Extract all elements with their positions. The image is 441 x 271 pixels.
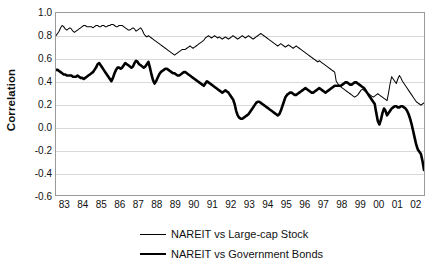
y-axis-title: Correlation xyxy=(0,0,22,200)
legend-label-government-bonds: NAREIT vs Government Bonds xyxy=(171,248,323,260)
x-axis-tick: 92 xyxy=(225,199,236,210)
series-line-government-bonds xyxy=(56,61,424,170)
x-axis-tick: 83 xyxy=(59,199,70,210)
x-axis-tick-labels: 8384858687888990919293949596979899000102 xyxy=(55,199,425,215)
x-axis-tick: 02 xyxy=(410,199,421,210)
x-axis-tick: 00 xyxy=(373,199,384,210)
y-axis-tick: 0.0 xyxy=(38,122,52,133)
x-axis-tick: 86 xyxy=(114,199,125,210)
plot-area xyxy=(55,12,425,196)
legend-line-icon-thin xyxy=(140,229,166,239)
y-axis-tick: -0.2 xyxy=(35,145,52,156)
y-axis-tick: 1.0 xyxy=(38,7,52,18)
correlation-chart: Correlation 1.00.80.60.40.20.0-0.2-0.4-0… xyxy=(0,0,441,271)
x-axis-tick: 99 xyxy=(355,199,366,210)
x-axis-tick: 85 xyxy=(96,199,107,210)
y-axis-tick: -0.6 xyxy=(35,191,52,202)
y-axis-tick: -0.4 xyxy=(35,168,52,179)
legend-line-icon-thick xyxy=(140,249,166,259)
chart-legend: NAREIT vs Large-cap Stock NAREIT vs Gove… xyxy=(0,224,441,264)
y-axis-title-label: Correlation xyxy=(5,69,17,131)
legend-item-large-cap-stock: NAREIT vs Large-cap Stock xyxy=(0,224,441,244)
x-axis-tick: 89 xyxy=(170,199,181,210)
y-axis-tick: 0.2 xyxy=(38,99,52,110)
x-axis-tick: 95 xyxy=(281,199,292,210)
x-axis-tick: 97 xyxy=(318,199,329,210)
x-axis-tick: 88 xyxy=(151,199,162,210)
y-axis-tick-labels: 1.00.80.60.40.20.0-0.2-0.4-0.6 xyxy=(20,12,54,196)
y-axis-tick: 0.6 xyxy=(38,53,52,64)
x-axis-tick: 96 xyxy=(299,199,310,210)
x-axis-tick: 98 xyxy=(336,199,347,210)
x-axis-tick: 84 xyxy=(77,199,88,210)
x-axis-tick: 87 xyxy=(133,199,144,210)
x-axis-tick: 94 xyxy=(262,199,273,210)
legend-label-large-cap-stock: NAREIT vs Large-cap Stock xyxy=(171,228,308,240)
legend-item-government-bonds: NAREIT vs Government Bonds xyxy=(0,244,441,264)
x-axis-tick: 93 xyxy=(244,199,255,210)
y-axis-tick: 0.8 xyxy=(38,30,52,41)
x-axis-tick: 01 xyxy=(392,199,403,210)
y-axis-tick: 0.4 xyxy=(38,76,52,87)
x-axis-tick: 90 xyxy=(188,199,199,210)
series-layer xyxy=(56,13,424,195)
x-axis-tick: 91 xyxy=(207,199,218,210)
